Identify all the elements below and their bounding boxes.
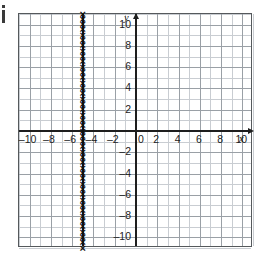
x-axis-tick-label: –8 (43, 133, 55, 145)
x-axis-tick-label: –2 (107, 133, 119, 145)
graph-figure: ××××××××××××××××××××××××××××××××××××××××… (0, 0, 262, 260)
x-axis-tick-label: –6 (64, 133, 76, 145)
y-axis-tick-label: –6 (109, 188, 131, 200)
x-axis-tick-label: 4 (175, 133, 181, 145)
x-axis-tick-label: 6 (196, 133, 202, 145)
y-axis-tick-label: –10 (109, 230, 131, 242)
y-axis-tick-label: 4 (109, 81, 131, 93)
y-axis-tick-label: –4 (109, 167, 131, 179)
x-axis-label: x (239, 133, 244, 144)
gridline-horizontal-minor (19, 248, 251, 249)
x-axis-tick-label: –10 (19, 133, 37, 145)
x-axis-tick-label: 0 (138, 133, 144, 145)
y-axis-tick-label: 8 (109, 39, 131, 51)
data-point-marker: × (78, 10, 87, 19)
x-axis-tick-label: 2 (153, 133, 159, 145)
x-axis-tick-label: 8 (217, 133, 223, 145)
y-axis-tick-label: –8 (109, 209, 131, 221)
y-axis-tick-label: 2 (109, 103, 131, 115)
plotted-series-layer: ××××××××××××××××××××××××××××××××××××××××… (19, 14, 251, 246)
x-axis-tick-label: –4 (86, 133, 98, 145)
y-axis-label: y (124, 12, 129, 23)
y-axis-tick-label: –2 (109, 145, 131, 157)
y-axis-tick-label: 6 (109, 60, 131, 72)
coordinate-plane: ××××××××××××××××××××××××××××××××××××××××… (18, 13, 252, 247)
corner-glyph-artifact (2, 10, 5, 23)
